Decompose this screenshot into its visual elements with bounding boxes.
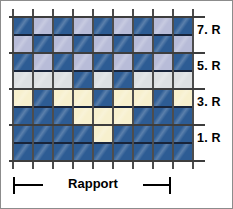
pattern-cell [133, 89, 153, 107]
pattern-cell [53, 71, 73, 89]
grid-row-rule [9, 124, 205, 126]
pattern-cell [33, 143, 53, 161]
pattern-cell [93, 71, 113, 89]
pattern-cell [93, 35, 113, 53]
pattern-grid [13, 17, 193, 161]
rapport-bar-left [13, 184, 43, 186]
pattern-cell [53, 125, 73, 143]
row-label-7r: 7. R [197, 23, 221, 37]
pattern-row [13, 17, 193, 35]
pattern-cell [73, 89, 93, 107]
pattern-cell [113, 89, 133, 107]
pattern-cell [93, 89, 113, 107]
pattern-cell [33, 71, 53, 89]
pattern-cell [153, 107, 173, 125]
pattern-cell [113, 71, 133, 89]
pattern-cell [33, 107, 53, 125]
pattern-cell [33, 53, 53, 71]
pattern-cell [73, 17, 93, 35]
pattern-chart-figure: 7. R5. R3. R1. R Rapport [0, 0, 233, 209]
pattern-cell [73, 125, 93, 143]
pattern-cell [93, 53, 113, 71]
pattern-row [13, 35, 193, 53]
rapport-bracket: Rapport [13, 173, 189, 197]
row-label-3r: 3. R [197, 95, 221, 109]
pattern-row [13, 107, 193, 125]
pattern-cell [153, 89, 173, 107]
pattern-cell [53, 107, 73, 125]
pattern-row [13, 89, 193, 107]
pattern-cell [53, 35, 73, 53]
row-label-1r: 1. R [197, 131, 221, 145]
rapport-label: Rapport [47, 176, 139, 191]
pattern-cell [133, 53, 153, 71]
row-label-5r: 5. R [197, 59, 221, 73]
pattern-cell [33, 17, 53, 35]
pattern-cell [113, 17, 133, 35]
pattern-cell [113, 125, 133, 143]
pattern-cell [133, 35, 153, 53]
pattern-cell [13, 53, 33, 71]
pattern-cell [93, 17, 113, 35]
pattern-cell [133, 107, 153, 125]
pattern-cell [153, 35, 173, 53]
pattern-cell [13, 71, 33, 89]
pattern-cell [33, 89, 53, 107]
pattern-cell [173, 89, 193, 107]
grid-row-rule [9, 88, 205, 90]
pattern-cell [93, 125, 113, 143]
pattern-cell [153, 53, 173, 71]
pattern-cell [173, 143, 193, 161]
pattern-cell [53, 53, 73, 71]
pattern-row [13, 125, 193, 143]
rapport-bar-right [143, 184, 171, 186]
pattern-cell [73, 71, 93, 89]
pattern-cell [153, 71, 173, 89]
pattern-cell [73, 35, 93, 53]
pattern-cell [33, 35, 53, 53]
pattern-cell [13, 107, 33, 125]
pattern-cell [93, 107, 113, 125]
grid-row-rule [9, 16, 205, 18]
pattern-cell [13, 143, 33, 161]
pattern-cell [73, 107, 93, 125]
pattern-cell [73, 143, 93, 161]
pattern-cell [133, 143, 153, 161]
grid-row-rule [9, 52, 205, 54]
pattern-cell [113, 53, 133, 71]
pattern-cell [113, 107, 133, 125]
pattern-cell [133, 125, 153, 143]
pattern-cell [113, 143, 133, 161]
pattern-row [13, 53, 193, 71]
pattern-cell [13, 35, 33, 53]
pattern-cell [173, 53, 193, 71]
pattern-cell [53, 17, 73, 35]
rapport-cap-right [169, 177, 171, 194]
pattern-cell [153, 125, 173, 143]
pattern-cell [53, 143, 73, 161]
pattern-cell [13, 17, 33, 35]
pattern-cell [13, 89, 33, 107]
pattern-cell [133, 17, 153, 35]
pattern-cell [33, 125, 53, 143]
pattern-cell [53, 89, 73, 107]
grid-row-rule [9, 160, 205, 162]
pattern-cell [13, 125, 33, 143]
pattern-cell [173, 17, 193, 35]
pattern-cell [153, 17, 173, 35]
pattern-cell [173, 107, 193, 125]
pattern-cell [173, 35, 193, 53]
pattern-cell [133, 71, 153, 89]
pattern-cell [173, 71, 193, 89]
pattern-cell [73, 53, 93, 71]
pattern-cell [93, 143, 113, 161]
pattern-cell [153, 143, 173, 161]
pattern-row [13, 143, 193, 161]
pattern-row [13, 71, 193, 89]
pattern-cell [173, 125, 193, 143]
pattern-cell [113, 35, 133, 53]
